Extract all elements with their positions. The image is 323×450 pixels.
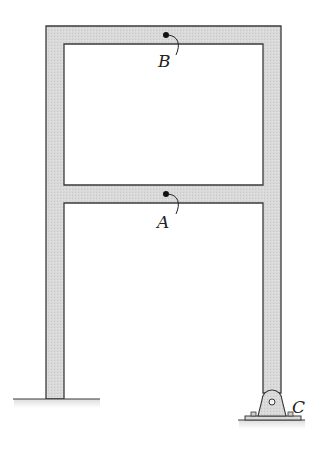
point-c-label: C — [292, 397, 305, 417]
fixed-support-left — [13, 399, 100, 408]
point-a-label: A — [155, 212, 169, 232]
frame-diagram: B A C — [0, 0, 323, 450]
point-b-label: B — [157, 51, 171, 71]
pin-icon — [269, 399, 275, 405]
